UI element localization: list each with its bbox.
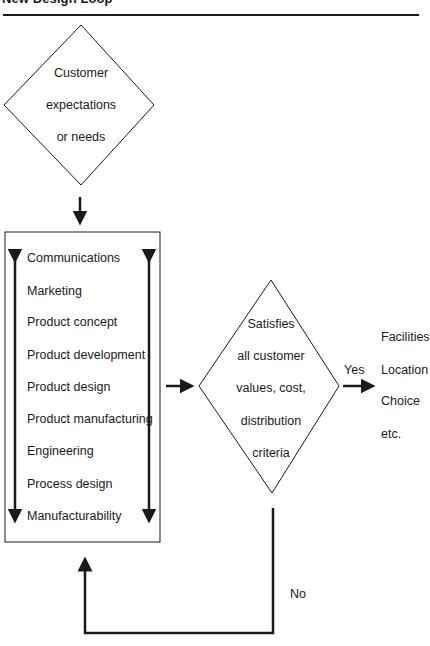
process-item: Communications [27,251,120,265]
decision-line-3: values, cost, [236,381,305,395]
customer-needs-line-3: or needs [57,130,106,144]
outcome-line: Choice [381,394,420,408]
outcome-line: etc. [381,427,401,441]
process-item: Product concept [27,315,117,329]
no-loop-line [85,508,273,633]
customer-needs-line-2: expectations [46,98,116,112]
process-item: Product manufacturing [27,412,153,426]
process-item: Engineering [27,444,94,458]
customer-needs-line-1: Customer [54,66,108,80]
yes-label: Yes [344,363,364,377]
outcome-line: Location [381,363,428,377]
decision-line-1: Satisfies [247,317,294,331]
decision-line-2: all customer [237,349,304,363]
decision-line-4: distribution [241,414,301,428]
process-item: Product development [27,348,145,362]
outcome-line: Facilities [381,330,430,344]
process-item: Product design [27,380,110,394]
process-item: Process design [27,477,112,491]
no-label: No [290,587,306,601]
process-item: Manufacturability [27,509,122,523]
process-item: Marketing [27,284,82,298]
decision-line-5: criteria [252,446,290,460]
